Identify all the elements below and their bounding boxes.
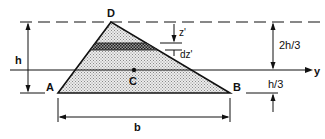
height-arrow-bottom bbox=[26, 85, 31, 93]
height-arrow-top bbox=[26, 23, 31, 31]
two-thirds-label: 2h/3 bbox=[279, 39, 300, 51]
z-prime-arrow bbox=[172, 35, 177, 43]
triangle-area bbox=[58, 22, 230, 93]
y-axis-arrowhead bbox=[305, 67, 313, 73]
vertex-label-a: A bbox=[46, 81, 54, 93]
dz-prime-label: dz' bbox=[180, 49, 193, 60]
two-thirds-arrow-top bbox=[271, 23, 276, 31]
base-label: b bbox=[134, 121, 141, 133]
centroid-point bbox=[132, 68, 136, 72]
height-label: h bbox=[15, 54, 22, 66]
vertex-label-b: B bbox=[233, 81, 241, 93]
centroid-label: C bbox=[129, 75, 137, 87]
z-prime-label: z' bbox=[179, 27, 186, 38]
strip-element bbox=[90, 43, 158, 50]
one-third-arrow bbox=[271, 94, 276, 102]
vertex-label-d: D bbox=[107, 7, 115, 19]
y-axis-label: y bbox=[314, 65, 321, 77]
one-third-label: h/3 bbox=[268, 78, 283, 90]
triangle-diagram: y C D A B h b 2h/3 h/3 z' dz' bbox=[0, 0, 325, 139]
base-arrow-right bbox=[222, 115, 230, 120]
base-arrow-left bbox=[59, 115, 67, 120]
two-thirds-arrow-bottom bbox=[271, 62, 276, 70]
